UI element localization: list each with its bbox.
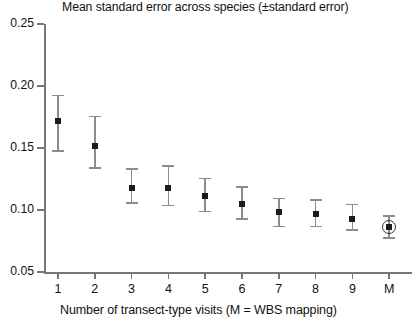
x-tick-label: 2 (83, 282, 107, 296)
x-tick-label: 7 (267, 282, 291, 296)
error-bar-cap-bottom (52, 150, 64, 152)
chart-figure: Mean standard error across species (±sta… (0, 0, 415, 324)
y-tick-label: 0.15 (0, 140, 34, 154)
error-bar-cap-top (89, 116, 101, 118)
data-point-marker (55, 118, 61, 124)
y-tick-label: 0.05 (0, 264, 34, 278)
x-tick-mark (204, 272, 206, 279)
error-bar-cap-bottom (199, 211, 211, 213)
x-tick-mark (278, 272, 280, 279)
x-axis-line (44, 272, 412, 274)
data-point-marker (313, 211, 319, 217)
x-tick-label: 8 (304, 282, 328, 296)
error-bar-cap-top (126, 168, 138, 170)
y-tick-label: 0.20 (0, 78, 34, 92)
error-bar-cap-bottom (126, 202, 138, 204)
y-tick-mark (37, 85, 44, 87)
y-tick-mark (37, 209, 44, 211)
x-tick-mark (388, 272, 390, 279)
y-axis-line (44, 24, 46, 273)
chart-title: Mean standard error across species (±sta… (62, 0, 349, 14)
error-bar-cap-bottom (310, 226, 322, 228)
y-tick-mark (37, 23, 44, 25)
x-tick-mark (352, 272, 354, 279)
y-tick-label: 0.25 (0, 16, 34, 30)
error-bar-cap-top (162, 165, 174, 167)
x-tick-mark (241, 272, 243, 279)
error-bar-cap-top (310, 199, 322, 201)
x-tick-mark (131, 272, 133, 279)
y-tick-label: 0.10 (0, 202, 34, 216)
x-tick-label: 6 (230, 282, 254, 296)
error-bar-cap-bottom (162, 205, 174, 207)
y-tick-mark (37, 271, 44, 273)
x-tick-label: 1 (46, 282, 70, 296)
data-point-marker (276, 209, 282, 215)
x-tick-mark (94, 272, 96, 279)
data-point-marker (386, 224, 392, 230)
x-tick-label: 9 (340, 282, 364, 296)
error-bar-cap-bottom (273, 226, 285, 228)
y-tick-mark (37, 147, 44, 149)
x-tick-mark (168, 272, 170, 279)
error-bar-cap-bottom (346, 229, 358, 231)
error-bar-cap-top (52, 95, 64, 97)
data-point-marker (349, 216, 355, 222)
data-point-marker (202, 193, 208, 199)
x-tick-label: 3 (120, 282, 144, 296)
error-bar-cap-top (273, 198, 285, 200)
x-axis-label: Number of transect-type visits (M = WBS … (60, 303, 337, 317)
error-bar-cap-bottom (89, 167, 101, 169)
data-point-marker (165, 185, 171, 191)
error-bar-cap-top (236, 186, 248, 188)
data-point-marker (92, 143, 98, 149)
x-tick-mark (57, 272, 59, 279)
x-tick-label: M (377, 282, 401, 296)
x-tick-label: 5 (193, 282, 217, 296)
x-tick-mark (315, 272, 317, 279)
data-point-marker (129, 185, 135, 191)
error-bar-cap-bottom (383, 237, 395, 239)
error-bar-cap-top (199, 178, 211, 180)
data-point-marker (239, 201, 245, 207)
x-tick-label: 4 (156, 282, 180, 296)
error-bar-cap-top (346, 204, 358, 206)
error-bar-cap-bottom (236, 218, 248, 220)
error-bar-cap-top (383, 215, 395, 217)
